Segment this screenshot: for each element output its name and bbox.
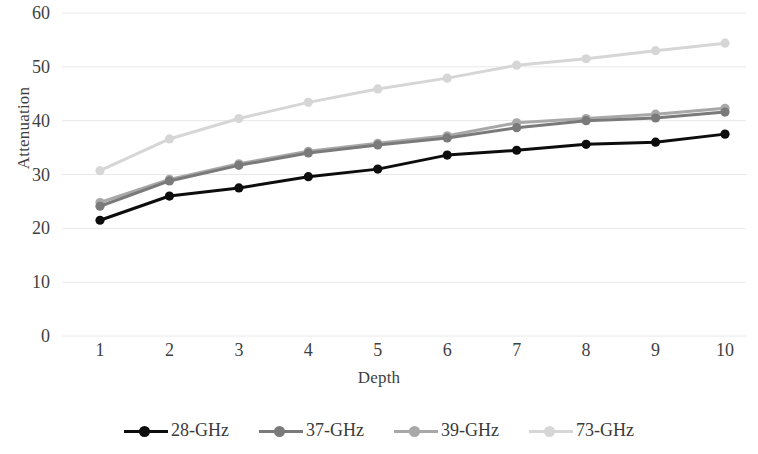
data-point-marker	[373, 165, 382, 174]
legend-dot	[409, 426, 420, 437]
legend-item[interactable]: 37-GHz	[259, 420, 364, 441]
data-point-marker	[512, 61, 521, 70]
data-point-marker	[304, 98, 313, 107]
x-axis-tick-label: 1	[80, 341, 120, 359]
legend-label: 73-GHz	[576, 420, 634, 441]
data-point-marker	[720, 107, 729, 116]
x-axis-title: Depth	[0, 368, 758, 388]
x-axis-tick-label: 5	[358, 341, 398, 359]
data-point-marker	[720, 130, 729, 139]
data-point-marker	[165, 191, 174, 200]
data-point-marker	[720, 39, 729, 48]
data-point-marker	[582, 116, 591, 125]
data-point-marker	[373, 140, 382, 149]
legend-item[interactable]: 73-GHz	[529, 420, 634, 441]
x-axis-tick-label: 10	[705, 341, 745, 359]
series-line	[100, 43, 725, 171]
data-point-marker	[651, 113, 660, 122]
x-axis-tick-label: 4	[288, 341, 328, 359]
series-37-ghz	[95, 107, 729, 210]
legend-dot	[139, 426, 150, 437]
data-point-marker	[443, 151, 452, 160]
x-axis-tick-label: 2	[149, 341, 189, 359]
x-axis-tick-label: 3	[219, 341, 259, 359]
data-point-marker	[512, 146, 521, 155]
legend-dot	[274, 426, 285, 437]
legend-item[interactable]: 28-GHz	[124, 420, 229, 441]
data-point-marker	[651, 138, 660, 147]
x-axis-tick-label: 9	[636, 341, 676, 359]
legend-label: 39-GHz	[441, 420, 499, 441]
legend-marker-icon	[394, 424, 438, 438]
legend-marker-icon	[259, 424, 303, 438]
series-73-ghz	[95, 39, 729, 176]
x-axis-tick-label: 7	[497, 341, 537, 359]
data-point-marker	[234, 183, 243, 192]
series-line	[100, 108, 725, 202]
legend-label: 28-GHz	[171, 420, 229, 441]
legend-label: 37-GHz	[306, 420, 364, 441]
data-point-marker	[234, 114, 243, 123]
data-point-marker	[373, 84, 382, 93]
data-point-marker	[95, 166, 104, 175]
data-point-marker	[512, 123, 521, 132]
data-point-marker	[582, 140, 591, 149]
data-point-marker	[95, 216, 104, 225]
data-point-marker	[304, 148, 313, 157]
legend-item[interactable]: 39-GHz	[394, 420, 499, 441]
x-axis-tick-label: 8	[566, 341, 606, 359]
x-axis-tick-label: 6	[427, 341, 467, 359]
data-point-marker	[234, 161, 243, 170]
data-point-marker	[165, 134, 174, 143]
data-point-marker	[443, 74, 452, 83]
data-point-marker	[651, 46, 660, 55]
data-point-marker	[304, 172, 313, 181]
data-point-marker	[165, 176, 174, 185]
legend-dot	[544, 426, 555, 437]
line-chart: Attenuation 0102030405060 12345678910 De…	[0, 0, 758, 454]
data-point-marker	[582, 54, 591, 63]
series-line	[100, 134, 725, 220]
legend-marker-icon	[529, 424, 573, 438]
chart-legend: 28-GHz37-GHz39-GHz73-GHz	[0, 420, 758, 441]
legend-marker-icon	[124, 424, 168, 438]
data-point-marker	[443, 133, 452, 142]
data-point-marker	[95, 202, 104, 211]
